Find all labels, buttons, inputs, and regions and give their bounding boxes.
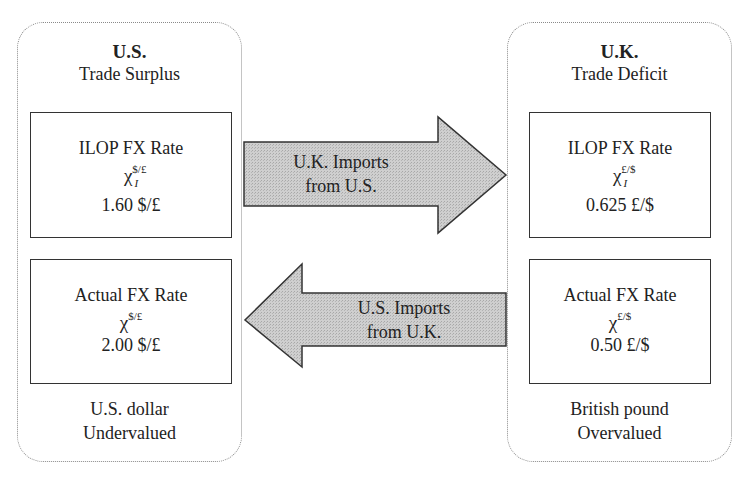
- uk-panel: U.K. Trade Deficit British pound Overval…: [507, 22, 732, 462]
- uk-currency-note: British pound Overvalued: [508, 397, 731, 445]
- us-actual-rate-box: Actual FX Rate χ$/£ 2.00 $/£: [30, 259, 232, 384]
- valuation-status: Overvalued: [508, 421, 731, 445]
- uk-actual-rate-box: Actual FX Rate χ£/$ 0.50 £/$: [529, 259, 711, 384]
- rate-value: 1.60 $/£: [31, 193, 231, 217]
- rate-title: ILOP FX Rate: [530, 137, 710, 159]
- rate-title: ILOP FX Rate: [31, 137, 231, 159]
- rate-symbol: χ$/£I: [31, 159, 231, 193]
- rate-symbol: χ£/$: [530, 306, 710, 333]
- rate-symbol: χ$/£: [31, 306, 231, 333]
- uk-panel-header: U.K. Trade Deficit: [508, 41, 731, 85]
- rate-title: Actual FX Rate: [530, 284, 710, 306]
- trade-status: Trade Surplus: [18, 63, 241, 85]
- rate-value: 2.00 $/£: [31, 333, 231, 357]
- rate-value: 0.50 £/$: [530, 333, 710, 357]
- trade-status: Trade Deficit: [508, 63, 731, 85]
- uk-ilop-rate-box: ILOP FX Rate χ£/$I 0.625 £/$: [529, 112, 711, 238]
- currency-name: British pound: [508, 397, 731, 421]
- rate-value: 0.625 £/$: [530, 193, 710, 217]
- us-panel-header: U.S. Trade Surplus: [18, 41, 241, 85]
- valuation-status: Undervalued: [18, 421, 241, 445]
- bottom-arrow-label: U.S. Imports from U.K.: [302, 296, 506, 344]
- rate-symbol: χ£/$I: [530, 159, 710, 193]
- country-label: U.K.: [508, 41, 731, 63]
- us-ilop-rate-box: ILOP FX Rate χ$/£I 1.60 $/£: [30, 112, 232, 238]
- currency-name: U.S. dollar: [18, 397, 241, 421]
- rate-title: Actual FX Rate: [31, 284, 231, 306]
- us-panel: U.S. Trade Surplus U.S. dollar Undervalu…: [17, 22, 242, 462]
- us-currency-note: U.S. dollar Undervalued: [18, 397, 241, 445]
- top-arrow-label: U.K. Imports from U.S.: [244, 150, 438, 198]
- country-label: U.S.: [18, 41, 241, 63]
